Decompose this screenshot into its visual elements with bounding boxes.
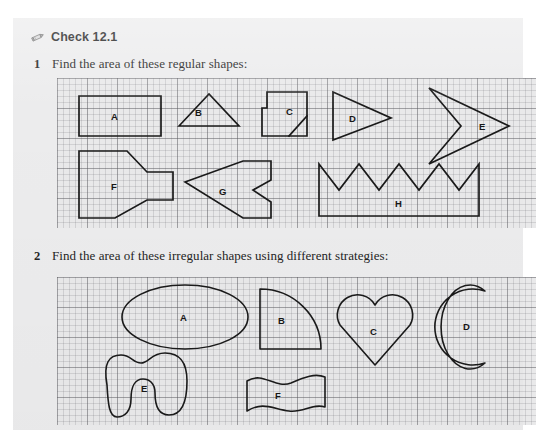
shape-label-a: A [111, 111, 118, 122]
page-root: Check 12.1 1 Find the area of these regu… [0, 0, 536, 444]
shape2-label-b: B [278, 315, 285, 326]
question-2: 2 Find the area of these irregular shape… [34, 248, 388, 264]
shape2-label-c: C [370, 326, 377, 337]
question-2-number: 2 [34, 249, 43, 264]
question-1-text: Find the area of these regular shapes: [52, 56, 247, 72]
shape-label-f: F [111, 181, 117, 192]
shape-g-notched-arrow [185, 161, 271, 218]
question-1: 1 Find the area of these regular shapes: [34, 56, 247, 72]
shape-b-quarter-circle [260, 289, 321, 349]
grid-panel-regular-shapes: A B C D E F G [57, 78, 536, 228]
shape-label-h: H [395, 198, 402, 209]
question-1-number: 1 [34, 57, 43, 72]
shape-c-l-shape [262, 92, 307, 136]
regular-shapes-drawing: A B C D E F G [57, 78, 536, 228]
shape-b-triangle [179, 94, 239, 126]
worksheet-header: Check 12.1 [30, 30, 117, 44]
shape-d-arrow-triangle [333, 92, 391, 140]
shape-c-diagonal-edge [289, 116, 307, 136]
question-2-text: Find the area of these irregular shapes … [52, 248, 388, 264]
shape-label-g: G [219, 186, 226, 197]
shape-label-d: D [349, 113, 356, 124]
shape-f-funnel [79, 151, 173, 218]
pencil-icon [30, 31, 45, 44]
shape2-label-a: A [180, 312, 187, 323]
shape2-label-d: D [463, 321, 470, 332]
page-title: Check 12.1 [51, 30, 117, 44]
shape-d-crescent [435, 285, 485, 369]
grid-panel-irregular-shapes: A B C D E F [57, 277, 536, 425]
irregular-shapes-drawing: A B C D E F [57, 277, 536, 425]
shape-label-b: B [195, 107, 202, 118]
shape-f-wavy-rectangle [247, 375, 325, 411]
shape-label-e: E [479, 121, 485, 132]
shape-a-rectangle [79, 96, 161, 136]
worksheet-card: Check 12.1 1 Find the area of these regu… [13, 18, 523, 430]
shape-label-c: C [286, 106, 293, 117]
shape2-label-e: E [141, 383, 147, 394]
shape-e-chevron-arrow [429, 88, 509, 164]
shape2-label-f: F [275, 390, 281, 401]
